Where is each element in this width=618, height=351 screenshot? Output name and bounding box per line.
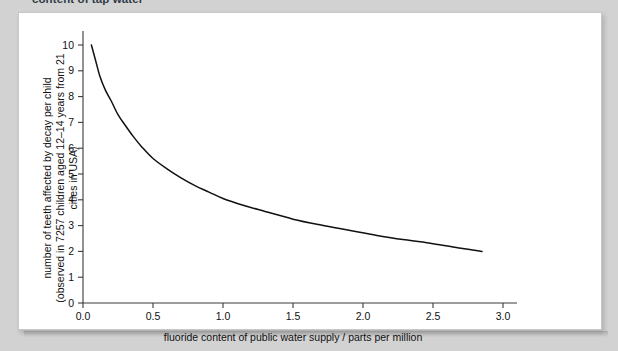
y-axis-ticks: 012345678910 <box>62 39 83 309</box>
x-axis-title: fluoride content of public water supply … <box>83 331 503 343</box>
y-tick-label: 8 <box>68 90 74 102</box>
y-tick-label: 2 <box>68 245 74 257</box>
decay-curve <box>91 45 482 251</box>
chart-plot-area: 012345678910 0.00.51.01.52.02.53.0 <box>19 13 603 331</box>
y-tick-label: 3 <box>68 219 74 231</box>
x-tick-label: 0.0 <box>76 310 91 322</box>
y-tick-label: 7 <box>68 116 74 128</box>
y-tick-label: 4 <box>68 193 74 205</box>
figure-panel: number of teeth affected by decay per ch… <box>18 12 602 330</box>
x-tick-label: 3.0 <box>496 310 511 322</box>
y-tick-label: 0 <box>68 297 74 309</box>
y-tick-label: 10 <box>62 39 74 51</box>
x-tick-label: 0.5 <box>146 310 161 322</box>
caption-strip: content of tap water <box>0 0 618 12</box>
x-tick-label: 1.0 <box>216 310 231 322</box>
y-tick-label: 1 <box>68 271 74 283</box>
x-tick-label: 2.5 <box>426 310 441 322</box>
y-tick-label: 6 <box>68 142 74 154</box>
y-tick-label: 5 <box>68 168 74 180</box>
x-tick-label: 1.5 <box>286 310 301 322</box>
caption-partial-text: content of tap water <box>32 0 143 5</box>
y-tick-label: 9 <box>68 64 74 76</box>
x-tick-label: 2.0 <box>356 310 371 322</box>
x-axis-ticks: 0.00.51.01.52.02.53.0 <box>76 303 511 322</box>
